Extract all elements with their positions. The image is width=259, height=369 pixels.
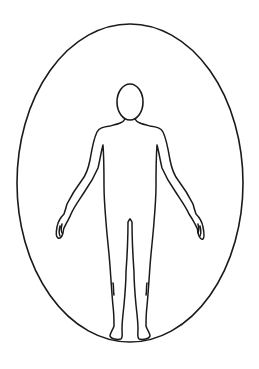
head-outline xyxy=(117,84,143,120)
right-knee-hint xyxy=(146,283,147,295)
enclosing-ellipse xyxy=(17,24,243,342)
right-body-contour xyxy=(130,119,204,339)
body-outline xyxy=(56,119,204,339)
left-knee-hint xyxy=(113,283,114,295)
figure-canvas: Outline of a standing human figure (fron… xyxy=(0,0,259,369)
left-body-contour xyxy=(56,119,130,339)
human-figure-diagram xyxy=(0,0,259,369)
left-hand-fingers xyxy=(59,224,62,236)
